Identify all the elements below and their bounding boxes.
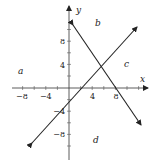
y-axis-label: y [75,5,82,15]
y-axis [67,6,71,160]
region-label-b: b [95,18,101,28]
region-label-a: a [18,66,23,76]
rising-line [32,27,137,143]
x-tick-label-neg4: −4 [40,92,52,101]
x-tick-label-8: 8 [113,92,118,101]
falling-line [73,25,141,125]
y-tick-label-8: 8 [60,37,65,46]
x-tick-label-neg8: −8 [16,92,28,101]
x-tick-label-4: 4 [90,92,95,101]
y-tick-label-4: 4 [60,61,65,70]
x-axis-label: x [140,74,145,84]
region-label-d: d [93,135,99,145]
y-tick-label-neg8: −8 [53,130,65,139]
coordinate-plane: −8 −4 4 8 8 4 −4 −8 y x a b c d [0,0,153,164]
region-label-c: c [124,59,129,69]
